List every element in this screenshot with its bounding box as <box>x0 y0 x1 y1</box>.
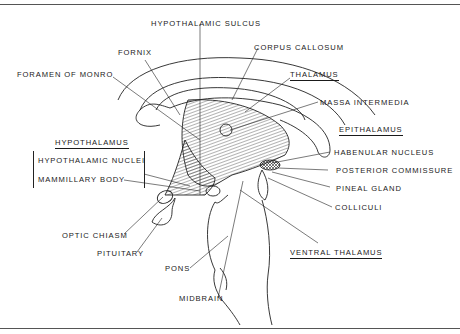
heading-ventral-thalamus: VENTRAL THALAMUS <box>290 248 382 259</box>
label-pituitary: PITUITARY <box>97 249 144 258</box>
label-posterior-commissure: POSTERIOR COMMISSURE <box>336 166 453 175</box>
label-optic-chiasm: OPTIC CHIASM <box>62 231 128 240</box>
label-fornix: FORNIX <box>118 48 152 57</box>
label-hypothalamic-nuclei: HYPOTHALAMIC NUCLEI <box>38 156 145 165</box>
label-habenular-nucleus: HABENULAR NUCLEUS <box>334 148 434 157</box>
label-colliculi: COLLICULI <box>335 203 382 212</box>
heading-thalamus: THALAMUS <box>290 70 339 81</box>
heading-hypothalamus: HYPOTHALAMUS <box>55 138 129 149</box>
label-mammillary-body: MAMMILLARY BODY <box>38 175 125 184</box>
heading-epithalamus: EPITHALAMUS <box>339 125 403 136</box>
label-pons: PONS <box>165 264 190 273</box>
label-foramen-of-monro: FORAMEN OF MONRO <box>17 70 113 79</box>
label-corpus-callosum: CORPUS CALLOSUM <box>254 43 344 52</box>
label-hypothalamic-sulcus: HYPOTHALAMIC SULCUS <box>151 19 261 28</box>
label-massa-intermedia: MASSA INTERMEDIA <box>320 98 410 107</box>
label-midbrain: MIDBRAIN <box>179 294 223 303</box>
label-pineal-gland: PINEAL GLAND <box>336 184 402 193</box>
